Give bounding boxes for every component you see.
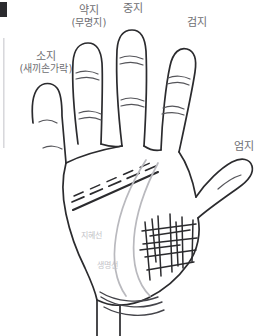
palm-right-upper-edge [179, 152, 196, 197]
crosshatch-v3 [170, 214, 172, 272]
index-finger-outline [161, 49, 196, 152]
middle-crease-upper [120, 56, 143, 59]
middle-crease-lower2 [121, 105, 144, 107]
hand-illustration [0, 0, 274, 336]
crosshatch-h2 [143, 238, 197, 244]
ring-crease-lower [79, 111, 101, 114]
web-middle-index [144, 146, 161, 150]
index-crease-lower [163, 106, 184, 109]
index-crease-upper2 [167, 83, 189, 85]
crosshatch-v5 [192, 220, 193, 262]
thumb-outline [196, 159, 252, 218]
ring-finger-outline [73, 43, 103, 144]
crosshatch-grid-group [140, 214, 197, 280]
pinky-outline [32, 84, 66, 164]
index-crease-lower2 [162, 113, 184, 115]
middle-crease-lower [121, 98, 144, 101]
ring-crease-upper [76, 71, 98, 74]
palm-knuckle-edge-pinky-ring [66, 146, 122, 163]
palm-line-label-head: 지혜선 [81, 231, 102, 240]
crosshatch-h3 [145, 250, 196, 257]
pinky-crease-lower [43, 146, 62, 149]
wrist-crease-lower [104, 307, 164, 315]
palm-line-label-life: 생명선 [97, 261, 118, 270]
palm-anatomy-diagram: 소지 (새끼손가락) 약지 (무명지) 중지 검지 엄지 지혜선 생명선 [0, 0, 274, 336]
crosshatch-v4 [182, 217, 183, 268]
ring-crease-lower2 [79, 118, 101, 120]
crosshatch-v7 [176, 222, 178, 266]
index-crease-upper [168, 76, 190, 79]
middle-finger-outline [117, 30, 147, 146]
web-ring-middle [101, 144, 122, 147]
head-line-dashed [74, 163, 150, 196]
middle-crease-upper2 [120, 63, 143, 65]
thumb-crease [218, 175, 241, 189]
ring-crease-upper2 [76, 78, 99, 80]
palm-major-lines-group [72, 163, 158, 210]
hand-outline-group [32, 30, 252, 336]
pinky-crease-upper [39, 120, 57, 123]
